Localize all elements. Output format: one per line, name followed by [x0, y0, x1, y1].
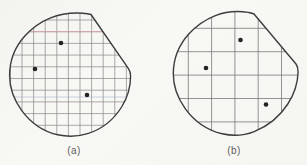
grid-b — [0, 0, 307, 165]
grid-a — [0, 0, 307, 165]
sample-point — [264, 102, 269, 107]
sample-point — [85, 93, 90, 98]
figure-canvas — [0, 0, 307, 165]
sample-point — [59, 41, 64, 46]
sample-point — [204, 66, 209, 71]
sample-point — [238, 38, 243, 43]
figure-stage: (a) (b) — [0, 0, 307, 165]
panel-label-b: (b) — [219, 145, 249, 156]
region-outline-b — [173, 11, 298, 135]
sample-point — [33, 67, 38, 72]
panel-label-a: (a) — [59, 145, 89, 156]
